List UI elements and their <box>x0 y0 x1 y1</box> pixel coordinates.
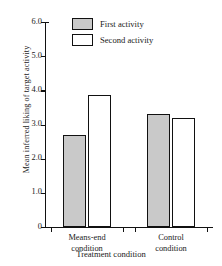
plot-area: 01.02.03.04.05.06.0 Means-endconditionCo… <box>45 22 213 227</box>
x-axis-separator <box>123 227 124 232</box>
bar-first-activity-1 <box>63 135 86 227</box>
y-tick-label: 2.0 <box>32 153 42 162</box>
bar-second-activity-2 <box>172 118 195 227</box>
y-tick-label: 3.0 <box>32 119 42 128</box>
y-tick-label: 6.0 <box>32 17 42 26</box>
y-axis-title: Mean inferred liking of target activity <box>22 10 31 210</box>
legend-label-second-activity: Second activity <box>100 35 153 45</box>
legend-item-first-activity: First activity <box>72 16 153 32</box>
x-axis-separator <box>207 227 208 232</box>
x-axis-separator <box>51 227 52 232</box>
y-tick-label: 5.0 <box>32 51 42 60</box>
y-tick-label: 4.0 <box>32 85 42 94</box>
bar-chart-figure: Mean inferred liking of target activity … <box>0 0 222 266</box>
y-tick-label: 0 <box>38 222 42 231</box>
bar-second-activity-1 <box>88 95 111 227</box>
x-axis-group-label-line: Means-end <box>47 233 127 244</box>
y-tick-label: 1.0 <box>32 187 42 196</box>
x-axis-group-label-line: Control <box>131 233 211 244</box>
legend-item-second-activity: Second activity <box>72 32 153 48</box>
x-axis-separator <box>135 227 136 232</box>
x-axis-line <box>45 227 213 228</box>
chart-legend: First activity Second activity <box>72 16 153 48</box>
bar-first-activity-2 <box>147 114 170 227</box>
legend-swatch-second-activity-icon <box>72 34 93 46</box>
legend-swatch-first-activity-icon <box>72 18 93 30</box>
legend-label-first-activity: First activity <box>100 19 144 29</box>
y-axis-top-cap <box>45 22 49 23</box>
x-axis-title: Treatment condition <box>0 249 222 259</box>
